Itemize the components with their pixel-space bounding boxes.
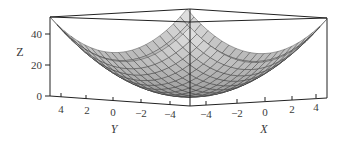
surface-plot: 40 20 0 Z 4 2 0 −2 −4 Y −4 −2 0 2 4 X bbox=[0, 0, 343, 146]
surface-cell bbox=[292, 38, 306, 51]
x-tick-4: 4 bbox=[313, 101, 319, 113]
x-tick-2: 2 bbox=[289, 103, 295, 115]
y-axis-label: Y bbox=[111, 122, 119, 136]
x-tick-neg2: −2 bbox=[231, 107, 243, 119]
surface-cell bbox=[64, 30, 78, 44]
x-tick-0: 0 bbox=[262, 106, 268, 118]
z-axis-label: Z bbox=[16, 45, 23, 59]
z-tick-0: 0 bbox=[37, 90, 43, 102]
y-tick-neg4: −4 bbox=[164, 108, 176, 120]
y-tick-neg2: −2 bbox=[135, 107, 147, 119]
y-tick-4: 4 bbox=[58, 103, 64, 115]
y-tick-0: 0 bbox=[110, 106, 116, 118]
z-tick-20: 20 bbox=[31, 59, 43, 71]
z-tick-40: 40 bbox=[31, 28, 43, 40]
y-tick-2: 2 bbox=[84, 104, 90, 116]
surface-cell bbox=[71, 36, 85, 49]
x-tick-neg4: −4 bbox=[200, 108, 212, 120]
x-axis-label: X bbox=[259, 122, 268, 136]
z-axis bbox=[45, 34, 50, 96]
surface-cell bbox=[299, 32, 313, 45]
